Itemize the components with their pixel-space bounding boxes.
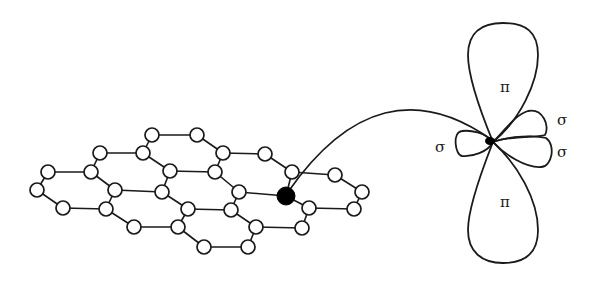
atom-to-orbital-connector: [288, 110, 492, 192]
carbon-atom: [41, 165, 55, 179]
carbon-atom: [56, 201, 70, 215]
carbon-atom: [145, 128, 159, 142]
carbon-atom: [224, 203, 238, 217]
label-pi-top: π: [500, 78, 510, 96]
carbon-atom: [99, 202, 113, 216]
highlighted-carbon-atom: [277, 187, 295, 205]
carbon-atom: [171, 220, 185, 234]
carbon-atom: [84, 165, 98, 179]
carbon-atom: [181, 202, 195, 216]
orbital-nucleus: [485, 137, 495, 145]
sp2-orbital: [456, 23, 552, 263]
carbon-atom: [249, 220, 263, 234]
carbon-atom: [216, 146, 230, 160]
orbital-labels: π π σ σ σ: [435, 78, 567, 211]
carbon-atom: [163, 164, 177, 178]
carbon-atom: [355, 185, 369, 199]
carbon-atom: [108, 183, 122, 197]
label-sigma-right-lower: σ: [557, 143, 567, 161]
label-sigma-left: σ: [435, 138, 445, 156]
carbon-atom: [190, 128, 204, 142]
carbon-atom: [295, 221, 309, 235]
lattice-atoms: [30, 128, 369, 254]
carbon-atom: [208, 165, 222, 179]
carbon-atom: [197, 240, 211, 254]
graphene-orbital-diagram: π π σ σ σ: [0, 0, 597, 281]
carbon-atom: [93, 146, 107, 160]
carbon-atom: [328, 168, 342, 182]
carbon-atom: [30, 183, 44, 197]
carbon-atom: [302, 201, 316, 215]
label-pi-bottom: π: [500, 193, 510, 211]
carbon-atom: [285, 165, 299, 179]
carbon-atom: [241, 240, 255, 254]
label-sigma-right-upper: σ: [557, 111, 567, 129]
lattice-bonds: [37, 135, 362, 247]
carbon-atom: [258, 147, 272, 161]
carbon-atom: [127, 220, 141, 234]
carbon-atom: [232, 185, 246, 199]
carbon-atom: [136, 146, 150, 160]
carbon-atom: [155, 185, 169, 199]
carbon-atom: [347, 202, 361, 216]
